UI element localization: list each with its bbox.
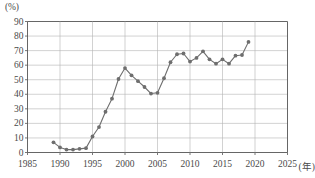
data-point xyxy=(52,140,56,144)
x-axis-tick-label: 1995 xyxy=(83,159,102,169)
x-axis-tick-label: 1990 xyxy=(51,159,70,169)
data-point xyxy=(97,125,101,129)
y-axis-tick-label: 50 xyxy=(4,75,24,85)
y-axis-tick-label: 60 xyxy=(4,60,24,70)
data-point xyxy=(91,135,95,139)
x-axis-tick-label: 1985 xyxy=(18,159,37,169)
data-point xyxy=(201,49,205,53)
data-point xyxy=(188,60,192,64)
data-point xyxy=(117,77,121,81)
data-point xyxy=(169,60,173,64)
x-axis-unit-label: (年) xyxy=(299,159,315,173)
data-point xyxy=(182,52,186,56)
y-axis-tick-label: 80 xyxy=(4,31,24,41)
y-axis-tick-label: 90 xyxy=(4,17,24,27)
data-point xyxy=(65,148,69,152)
data-point xyxy=(208,57,212,61)
x-axis-tick-label: 2015 xyxy=(213,159,232,169)
data-point xyxy=(214,62,218,66)
y-axis-tick-label: 40 xyxy=(4,89,24,99)
data-point xyxy=(130,73,134,77)
x-axis-tick-label: 2010 xyxy=(181,159,200,169)
data-point xyxy=(156,91,160,95)
x-axis-tick-label: 2005 xyxy=(148,159,167,169)
data-point xyxy=(110,97,114,101)
x-axis-tick-label: 2000 xyxy=(116,159,135,169)
data-point xyxy=(123,66,127,70)
data-point xyxy=(71,148,75,152)
data-point xyxy=(78,147,82,151)
y-axis-tick-label: 30 xyxy=(4,104,24,114)
data-point xyxy=(227,62,231,66)
data-point xyxy=(143,85,147,89)
plot-area xyxy=(0,0,315,178)
data-point xyxy=(58,146,62,150)
x-axis-tick-label: 2025 xyxy=(278,159,297,169)
line-chart: (%) 0102030405060708090 1985199019952000… xyxy=(0,0,315,178)
data-point xyxy=(175,52,179,56)
data-point xyxy=(247,40,251,44)
data-point xyxy=(162,76,166,80)
data-point xyxy=(195,56,199,60)
x-axis-tick-label: 2020 xyxy=(246,159,265,169)
y-axis-tick-label: 10 xyxy=(4,133,24,143)
y-axis-tick-label: 20 xyxy=(4,118,24,128)
y-axis-tick-label: 70 xyxy=(4,46,24,56)
data-point xyxy=(84,146,88,150)
data-point xyxy=(221,57,225,61)
data-point xyxy=(234,54,238,58)
data-series-line xyxy=(54,42,249,150)
data-point xyxy=(149,92,153,96)
data-points xyxy=(52,40,251,152)
data-point xyxy=(240,53,244,57)
data-point xyxy=(104,110,108,114)
data-point xyxy=(136,79,140,83)
y-axis-tick-label: 0 xyxy=(4,148,24,158)
